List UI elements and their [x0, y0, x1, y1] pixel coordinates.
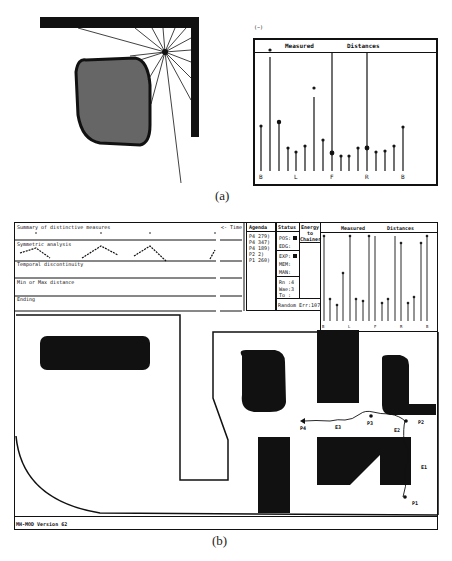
environment-map	[0, 0, 452, 561]
version-label: MH-MOD Version 62	[16, 521, 67, 527]
path-label-p1: P1	[412, 500, 418, 506]
path-label-p4: P4	[300, 425, 306, 431]
path-label-p2: P2	[418, 419, 424, 425]
path-label-e2: E2	[394, 427, 400, 433]
caption-b: (b)	[212, 533, 227, 549]
path-label-p3: P3	[367, 420, 373, 426]
path-label-e3: E3	[335, 424, 341, 430]
path-label-e1: E1	[421, 464, 427, 470]
version-divider	[15, 516, 438, 517]
